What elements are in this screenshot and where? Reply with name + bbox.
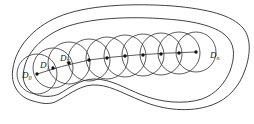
disk-circles [17, 32, 216, 94]
disk-chain-figure: D0 D1 D2 Dn [0, 0, 254, 124]
inner-region-boundary [23, 18, 233, 102]
center-dot-D3 [87, 58, 90, 61]
label-Dn: Dn [209, 50, 220, 61]
label-D0: D0 [21, 70, 32, 81]
center-dot-D7 [159, 52, 162, 55]
figure-canvas: D0 D1 D2 Dn [0, 0, 254, 124]
center-dot-D5 [123, 54, 126, 57]
center-dot-D8 [177, 51, 180, 54]
center-dot-D0 [35, 72, 38, 75]
center-dot-D6 [141, 53, 144, 56]
center-dot-D4 [105, 56, 108, 59]
center-dot-D1 [51, 66, 54, 69]
center-dot-Dn [194, 50, 197, 53]
